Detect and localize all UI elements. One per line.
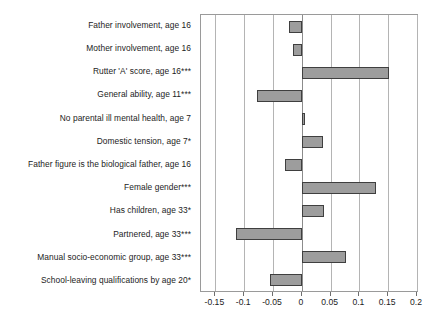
x-axis-tick [214, 292, 215, 296]
gridline [417, 15, 418, 291]
category-label: Partnered, age 33*** [0, 223, 196, 246]
x-axis-tick-labels: -0.15-0.1-0.0500.050.10.150.2 [0, 297, 445, 315]
bar-row [201, 176, 417, 199]
bar [236, 228, 302, 240]
category-label: No parental ill mental health, age 7 [0, 107, 196, 130]
category-label: Mother involvement, age 16 [0, 37, 196, 60]
category-label: Domestic tension, age 7* [0, 130, 196, 153]
bar-row [201, 15, 417, 38]
x-axis-tick-label: 0.15 [379, 297, 396, 307]
category-label: General ability, age 11*** [0, 84, 196, 107]
x-axis-tick-label: 0.2 [410, 297, 422, 307]
x-axis-tick [330, 292, 331, 296]
bar [302, 205, 324, 217]
category-label: Has children, age 33* [0, 199, 196, 222]
x-axis-tick [358, 292, 359, 296]
x-axis-tick-label: -0.05 [262, 297, 282, 307]
bar [293, 44, 302, 56]
horizontal-bar-chart: Father involvement, age 16 Mother involv… [0, 0, 445, 333]
category-label: Rutter 'A' score, age 16*** [0, 60, 196, 83]
bars-layer [201, 15, 417, 291]
bar [302, 182, 376, 194]
category-label: Father figure is the biological father, … [0, 153, 196, 176]
bar-row [201, 107, 417, 130]
bar [285, 159, 302, 171]
bar-row [201, 245, 417, 268]
bar-row [201, 61, 417, 84]
bar-row [201, 84, 417, 107]
x-axis-tick-label: 0.05 [321, 297, 338, 307]
bar [289, 21, 302, 33]
x-axis-tick-label: -0.15 [205, 297, 225, 307]
x-axis-tick [416, 292, 417, 296]
bar [302, 251, 346, 263]
bar-row [201, 153, 417, 176]
bar [257, 90, 302, 102]
x-axis-tick-label: -0.1 [236, 297, 251, 307]
x-axis-tick [243, 292, 244, 296]
bar-row [201, 38, 417, 61]
x-axis-tick-label: 0.1 [352, 297, 364, 307]
x-axis-tick [387, 292, 388, 296]
bar-row [201, 268, 417, 291]
bar-row [201, 130, 417, 153]
category-label: Father involvement, age 16 [0, 14, 196, 37]
plot-area [200, 14, 418, 292]
bar [302, 136, 323, 148]
category-label: Manual socio-economic group, age 33*** [0, 246, 196, 269]
x-axis-tick-label: 0 [298, 297, 303, 307]
x-axis-tick [301, 292, 302, 296]
bar [270, 274, 302, 286]
bar-row [201, 222, 417, 245]
bar [302, 113, 305, 125]
x-axis-tick [272, 292, 273, 296]
category-label: Female gender*** [0, 176, 196, 199]
bar [302, 67, 390, 79]
category-label-column: Father involvement, age 16 Mother involv… [0, 14, 196, 292]
bar-row [201, 199, 417, 222]
category-label: School-leaving qualifications by age 20* [0, 269, 196, 292]
